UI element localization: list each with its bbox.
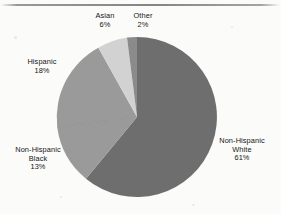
pie-label-non-hispanic-black: Non-Hispanic Black 13% <box>2 146 74 172</box>
scan-speckle <box>231 26 233 28</box>
pie-label-hispanic: Hispanic 18% <box>14 58 70 75</box>
pie-label-asian: Asian 6% <box>86 12 124 29</box>
pie-label-non-hispanic-black-percent: 13% <box>2 163 74 172</box>
pie-chart-svg <box>0 0 281 214</box>
scan-speckle <box>192 204 195 206</box>
scan-speckle <box>60 196 62 198</box>
pie-label-hispanic-name: Hispanic <box>27 57 56 66</box>
pie-label-other-name: Other <box>134 11 153 20</box>
pie-label-non-hispanic-black-line1: Non-Hispanic <box>15 145 61 154</box>
pie-label-other-percent: 2% <box>125 21 161 30</box>
pie-label-hispanic-percent: 18% <box>14 67 70 76</box>
pie-label-asian-percent: 6% <box>86 21 124 30</box>
pie-chart: Asian 6% Other 2% Hispanic 18% Non-Hispa… <box>0 0 281 214</box>
pie-label-asian-name: Asian <box>96 11 115 20</box>
pie-label-non-hispanic-white: Non-Hispanic White 61% <box>206 137 278 163</box>
pie-label-non-hispanic-white-line1: Non-Hispanic <box>219 136 265 145</box>
pie-label-other: Other 2% <box>125 12 161 29</box>
scan-speckle <box>14 36 17 39</box>
chart-page: Asian 6% Other 2% Hispanic 18% Non-Hispa… <box>0 0 281 214</box>
pie-label-non-hispanic-white-percent: 61% <box>206 154 278 163</box>
